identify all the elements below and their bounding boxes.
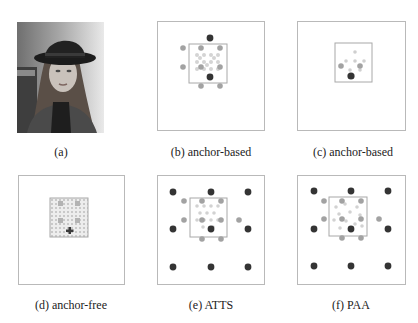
- panel-f: (f) PAA: [0, 0, 418, 323]
- anchor-points-f: [0, 0, 418, 323]
- panel-f-label: (f) PAA: [290, 298, 412, 313]
